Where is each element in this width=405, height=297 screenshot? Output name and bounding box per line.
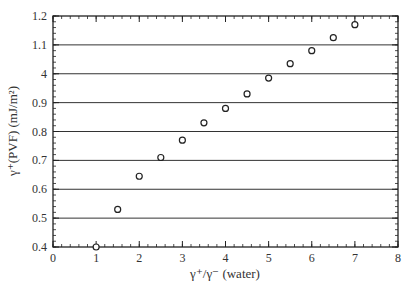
scatter-chart: 012345678 0.40.50.60.70.80.941.11.2 γ⁺/γ… — [0, 0, 405, 297]
x-tick-labels: 012345678 — [50, 251, 401, 265]
data-point — [223, 105, 229, 111]
y-tick-label: 0.9 — [32, 96, 47, 110]
data-point — [115, 206, 121, 212]
y-tick-label: 0.6 — [32, 182, 47, 196]
x-tick-label: 0 — [50, 251, 56, 265]
y-tick-label: 4 — [41, 67, 47, 81]
data-point — [287, 61, 293, 67]
data-point — [309, 48, 315, 54]
y-tick-label: 0.5 — [32, 211, 47, 225]
data-point — [201, 120, 207, 126]
data-point — [352, 22, 358, 28]
y-axis-label: γ⁺(PVF) (mJ/m²) — [5, 86, 20, 177]
x-tick-label: 4 — [223, 251, 229, 265]
data-point — [330, 35, 336, 41]
data-point — [266, 75, 272, 81]
data-point — [179, 137, 185, 143]
data-point — [136, 173, 142, 179]
x-tick-label: 6 — [309, 251, 315, 265]
y-tick-label: 0.8 — [32, 125, 47, 139]
x-tick-label: 8 — [395, 251, 401, 265]
data-point — [93, 244, 99, 250]
y-tick-label: 1.2 — [32, 9, 47, 23]
y-tick-label: 0.4 — [32, 240, 47, 254]
y-tick-label: 0.7 — [32, 153, 47, 167]
data-point — [244, 91, 250, 97]
x-tick-label: 7 — [352, 251, 358, 265]
x-axis-label: γ⁺/γ⁻ (water) — [189, 266, 260, 281]
y-tick-label: 1.1 — [32, 38, 47, 52]
x-tick-label: 5 — [266, 251, 272, 265]
y-tick-labels: 0.40.50.60.70.80.941.11.2 — [32, 9, 47, 254]
x-tick-label: 1 — [93, 251, 99, 265]
grid-lines — [53, 45, 398, 218]
x-tick-label: 2 — [136, 251, 142, 265]
data-point — [158, 154, 164, 160]
x-tick-label: 3 — [179, 251, 185, 265]
data-points — [93, 22, 358, 250]
